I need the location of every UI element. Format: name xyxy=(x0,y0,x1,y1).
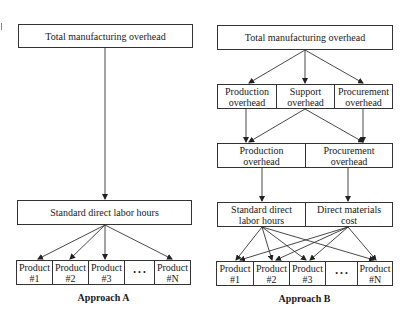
b-arrow-support-to-procurement xyxy=(305,109,363,142)
b-total-overhead-label: Total manufacturing overhead xyxy=(245,32,365,43)
a-total-overhead-label: Total manufacturing overhead xyxy=(45,31,165,42)
a-total-overhead-box: Total manufacturing overhead xyxy=(18,24,193,48)
b-total-overhead-box: Total manufacturing overhead xyxy=(217,25,393,50)
cropped-text-fragment xyxy=(1,23,5,30)
a-product-2: Product #2 xyxy=(53,261,89,284)
b-arrow-top-to-procurement xyxy=(305,50,363,83)
b-products-row: Product #1 Product #2 Product #3 • • • P… xyxy=(216,261,393,286)
a-product-ellipsis: • • • xyxy=(125,261,155,284)
b-product-n: Product #N xyxy=(358,262,392,285)
b-combined-production: Production overhead xyxy=(218,144,306,167)
b-pool-support: Support overhead xyxy=(277,85,335,108)
b-drivers-row: Standard direct labor hours Direct mater… xyxy=(217,202,393,227)
b-combined-procurement: Procurement overhead xyxy=(306,144,392,167)
a-product-1: Product #1 xyxy=(17,261,53,284)
b-pools-row: Production overhead Support overhead Pro… xyxy=(217,84,393,109)
a-arrow-to-p1 xyxy=(38,225,105,259)
b-combined-row: Production overhead Procurement overhead xyxy=(217,143,393,168)
b-product-3: Product #3 xyxy=(290,262,326,285)
b-driver-labor: Standard direct labor hours xyxy=(218,203,306,226)
b-arrow-top-to-production xyxy=(249,50,305,83)
a-product-3: Product #3 xyxy=(89,261,125,284)
a-arrow-to-p2 xyxy=(70,225,105,259)
b-pool-production: Production overhead xyxy=(218,85,277,108)
b-caption: Approach B xyxy=(216,293,393,304)
b-pool-procurement: Procurement overhead xyxy=(335,85,392,108)
a-driver-label: Standard direct labor hours xyxy=(50,207,159,218)
b-driver-materials: Direct materials cost xyxy=(306,203,392,226)
b-arrow-support-to-production xyxy=(249,109,305,142)
b-product-1: Product #1 xyxy=(217,262,254,285)
b-product-2: Product #2 xyxy=(254,262,290,285)
b-product-ellipsis: • • • xyxy=(326,262,358,285)
a-caption: Approach A xyxy=(16,292,191,303)
a-products-row: Product #1 Product #2 Product #3 • • • P… xyxy=(16,260,191,285)
a-arrow-to-pn xyxy=(105,225,172,259)
a-driver-box: Standard direct labor hours xyxy=(17,200,192,225)
a-product-n: Product #N xyxy=(155,261,190,284)
